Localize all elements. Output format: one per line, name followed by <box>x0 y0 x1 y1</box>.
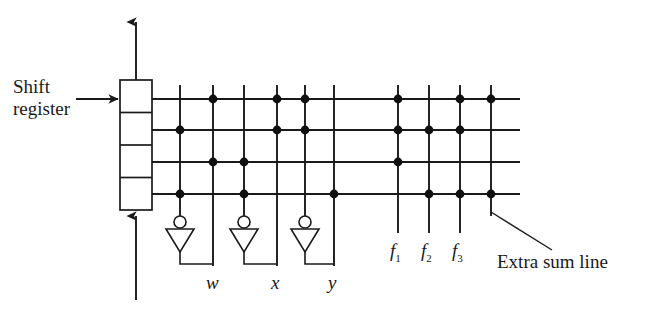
output-label-f3: f3 <box>452 240 463 264</box>
input-label-w: w <box>206 272 219 294</box>
dot-r3-c398 <box>394 158 403 167</box>
inverter-output-wire-w <box>180 252 213 264</box>
output-label-f1: f1 <box>390 240 401 264</box>
inverter-bubble-y <box>299 216 311 228</box>
dot-r1-c305 <box>301 95 310 104</box>
extra-sum-line-label: Extra sum line <box>497 251 608 273</box>
output-label-f2-sub: 2 <box>426 252 432 264</box>
dot-r4-c244 <box>240 190 249 199</box>
dot-r2-c398 <box>394 126 403 135</box>
inverter-triangle-x <box>230 229 258 252</box>
shift-register-label: Shift register <box>13 76 70 121</box>
inverter-w <box>166 216 213 264</box>
vertical-product-lines <box>180 85 491 266</box>
dot-r2-c277 <box>273 126 282 135</box>
dot-r4-c491 <box>487 190 496 199</box>
dot-r1-c491 <box>487 95 496 104</box>
dot-r3-c244 <box>240 158 249 167</box>
dot-r1-c460 <box>456 95 465 104</box>
shift-register-label-line2: register <box>13 98 70 120</box>
dot-r2-c429 <box>425 126 434 135</box>
horizontal-sum-lines <box>152 99 520 194</box>
connection-dots <box>176 95 496 199</box>
inverter-output-wire-y <box>305 252 334 264</box>
dot-r2-c180 <box>176 126 185 135</box>
inverter-x <box>230 216 277 264</box>
dot-r2-c460 <box>456 126 465 135</box>
dot-r4-c429 <box>425 190 434 199</box>
shift-register-label-line1: Shift <box>13 76 70 98</box>
inverter-triangle-y <box>291 229 319 252</box>
output-label-f3-sub: 3 <box>457 252 463 264</box>
inverter-triangle-w <box>166 229 194 252</box>
shift-register-box <box>120 80 152 210</box>
dot-r3-c213 <box>209 158 218 167</box>
input-label-x: x <box>271 272 279 294</box>
dot-r4-c460 <box>456 190 465 199</box>
output-label-f1-sub: 1 <box>395 252 401 264</box>
dot-r1-c213 <box>209 95 218 104</box>
output-label-f2: f2 <box>421 240 432 264</box>
dot-r1-c398 <box>394 95 403 104</box>
input-label-y: y <box>328 272 336 294</box>
inverter-bubble-w <box>174 216 186 228</box>
inverter-output-wire-x <box>244 252 277 264</box>
dot-r4-c180 <box>176 190 185 199</box>
dot-r1-c277 <box>273 95 282 104</box>
inverter-bubble-x <box>238 216 250 228</box>
figure-canvas: Shift register Extra sum line w x y f1 f… <box>0 0 652 321</box>
dot-r2-c305 <box>301 126 310 135</box>
extra-sum-leader-line <box>491 212 552 250</box>
inverter-y <box>291 216 334 264</box>
dot-r4-c334 <box>330 190 339 199</box>
